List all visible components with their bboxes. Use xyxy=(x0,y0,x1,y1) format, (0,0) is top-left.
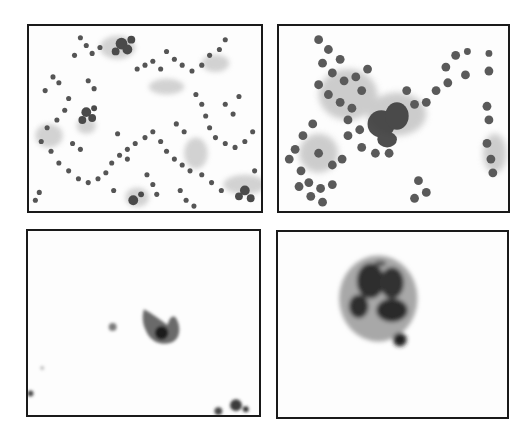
single-cell-image xyxy=(28,231,259,415)
cell-field-image xyxy=(29,26,261,211)
micrograph-panel-top-right xyxy=(277,24,510,213)
micrograph-panel-bottom-left xyxy=(26,229,261,417)
cell-cluster-image xyxy=(278,232,507,417)
cell-sheet-image xyxy=(279,26,508,211)
micrograph-panel-bottom-right xyxy=(276,230,509,419)
micrograph-panel-top-left xyxy=(27,24,263,213)
